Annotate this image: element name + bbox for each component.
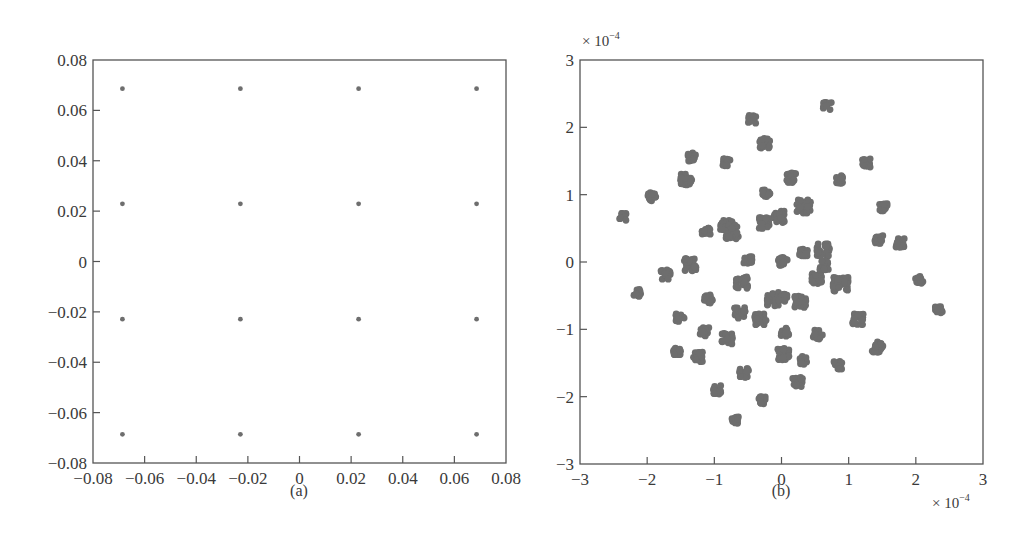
panel-b-caption: (b) <box>772 482 791 500</box>
symbol-cluster <box>912 273 926 287</box>
data-point <box>356 317 361 322</box>
y-tick-label: −0.08 <box>48 454 87 473</box>
x-tick-label: 0.08 <box>491 469 521 488</box>
data-point <box>120 317 125 322</box>
data-point <box>356 432 361 437</box>
x-tick-label: −2 <box>638 470 656 489</box>
panel-b-scatter: −3−2−101233210−1−2−3 <box>556 51 987 489</box>
symbol-cluster <box>736 365 752 380</box>
data-point <box>120 201 125 206</box>
symbol-cluster <box>774 345 792 363</box>
x-tick-label: 0.02 <box>336 469 366 488</box>
symbol-cluster <box>701 292 716 307</box>
symbol-cluster <box>859 155 873 170</box>
data-point <box>120 432 125 437</box>
y-tick-label: −2 <box>556 388 574 407</box>
data-point <box>238 432 243 437</box>
symbol-cluster <box>849 311 866 328</box>
symbol-cluster <box>833 172 846 186</box>
symbol-cluster <box>778 325 792 340</box>
symbol-cluster <box>719 330 736 347</box>
symbol-cluster <box>729 413 742 426</box>
y-tick-label: 0.04 <box>57 152 87 171</box>
panel-b-y-multiplier: × 10−4 <box>582 30 620 49</box>
x-tick-label: 0.06 <box>440 469 470 488</box>
panel-b-x-multiplier: × 10−4 <box>932 492 970 511</box>
symbol-cluster <box>690 349 706 365</box>
symbol-cluster <box>616 210 629 224</box>
symbol-cluster <box>731 304 748 321</box>
data-point <box>474 86 479 91</box>
symbol-cluster <box>685 150 699 165</box>
data-point <box>356 201 361 206</box>
y-tick-label: 0.02 <box>57 202 87 221</box>
symbol-cluster <box>756 135 773 152</box>
y-tick-label: 0 <box>566 253 575 272</box>
symbol-cluster <box>783 169 799 186</box>
symbol-cluster <box>645 189 660 204</box>
x-tick-label: 0.04 <box>388 469 418 488</box>
symbol-cluster <box>751 310 769 328</box>
symbol-cluster <box>697 324 712 339</box>
symbol-cluster <box>631 286 644 300</box>
y-tick-label: 0.06 <box>57 101 87 120</box>
y-tick-label: 2 <box>566 118 575 137</box>
symbol-cluster <box>720 155 734 169</box>
symbol-cluster <box>733 274 751 292</box>
symbol-cluster <box>710 382 724 397</box>
y-tick-label: 0.08 <box>57 51 87 70</box>
x-tick-label: −1 <box>705 470 723 489</box>
y-tick-label: 3 <box>566 51 575 70</box>
symbol-cluster <box>658 266 674 282</box>
symbol-cluster <box>699 225 714 238</box>
symbol-cluster <box>740 253 755 266</box>
y-tick-label: 0 <box>79 253 88 272</box>
y-tick-label: 1 <box>566 186 575 205</box>
symbol-cluster <box>673 311 688 325</box>
symbol-cluster <box>872 232 887 247</box>
data-point <box>238 201 243 206</box>
y-tick-label: −0.02 <box>48 303 87 322</box>
x-tick-label: −0.02 <box>228 469 267 488</box>
y-tick-label: −3 <box>556 455 574 474</box>
x-tick-label: −0.04 <box>177 469 217 488</box>
symbol-cluster <box>756 393 769 407</box>
panel-a-scatter: −0.08−0.06−0.04−0.0200.020.040.060.080.0… <box>48 51 521 488</box>
symbol-cluster <box>869 339 886 356</box>
symbol-cluster <box>814 240 833 259</box>
data-point <box>238 317 243 322</box>
y-tick-label: −1 <box>556 320 574 339</box>
symbol-cluster <box>670 345 684 358</box>
plot-area <box>93 60 506 463</box>
x-tick-label: 2 <box>912 470 921 489</box>
symbol-cluster <box>775 254 791 269</box>
data-point <box>356 86 361 91</box>
panel-a-caption: (a) <box>290 482 308 500</box>
y-tick-label: −0.04 <box>48 353 88 372</box>
symbol-cluster <box>816 258 831 274</box>
symbol-cluster <box>932 303 946 316</box>
symbol-cluster <box>831 358 846 373</box>
figure-canvas: −0.08−0.06−0.04−0.0200.020.040.060.080.0… <box>0 0 1027 560</box>
data-point <box>474 201 479 206</box>
symbol-cluster <box>789 374 805 390</box>
x-tick-label: 3 <box>979 470 988 489</box>
symbol-cluster <box>893 235 908 250</box>
symbol-cluster <box>793 196 813 216</box>
symbol-cluster <box>796 246 811 260</box>
data-point <box>120 86 125 91</box>
symbol-cluster <box>759 186 773 200</box>
symbol-cluster <box>770 208 788 226</box>
symbol-cluster <box>876 200 890 214</box>
symbol-cluster <box>810 327 826 343</box>
symbol-cluster <box>820 99 835 113</box>
symbol-cluster <box>681 255 699 274</box>
symbol-cluster <box>745 112 759 127</box>
data-point <box>474 432 479 437</box>
symbol-cluster <box>677 171 695 189</box>
data-point <box>238 86 243 91</box>
x-tick-label: 1 <box>844 470 853 489</box>
data-point <box>474 317 479 322</box>
symbol-cluster <box>791 293 809 311</box>
y-tick-label: −0.06 <box>48 404 87 423</box>
